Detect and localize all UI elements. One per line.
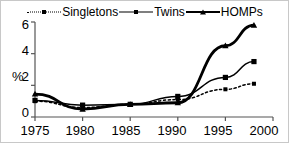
line-chart: Singletons Twins HOMPs % 6 4 2 0 1975 19… <box>0 0 289 143</box>
data-point <box>32 98 37 103</box>
data-point <box>223 75 228 80</box>
data-point <box>252 82 256 86</box>
series-homps <box>32 22 257 112</box>
data-point <box>223 87 227 91</box>
plot-area <box>1 1 289 143</box>
data-point <box>251 59 256 64</box>
data-point <box>175 94 180 99</box>
data-series-layer <box>32 22 257 112</box>
series-twins <box>32 59 256 108</box>
